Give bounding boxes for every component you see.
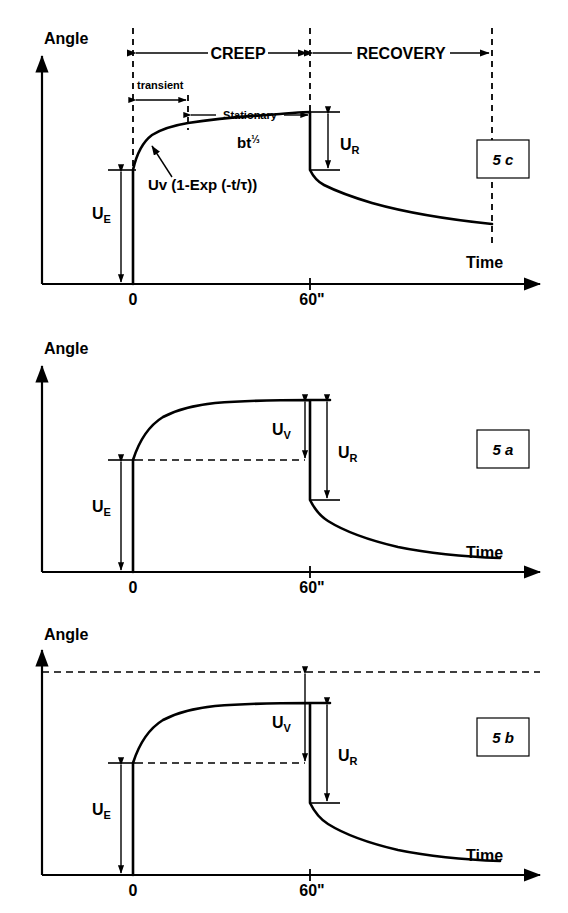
- creep-recovery-figure: Angle Time CREEP RECOVERY transient Stat…: [0, 0, 568, 913]
- annotation-stationary-law-5c: bt⅓: [237, 134, 260, 151]
- chart-panel-5a: Angle Time UE UV UR 0 60" 5 a: [0, 310, 568, 610]
- ue-label-5a: UE: [92, 498, 111, 518]
- x-tick-label-0-5b: 0: [129, 882, 138, 899]
- chart-svg-5a: Angle Time UE UV UR 0 60" 5 a: [0, 310, 568, 610]
- x-tick-label-0-5c: 0: [129, 291, 138, 308]
- ue-label-5b: UE: [92, 801, 111, 821]
- y-axis-label-5c: Angle: [44, 30, 89, 47]
- x-tick-label-60-5b: 60": [299, 882, 324, 899]
- sub-phase-label-transient-5c: transient: [137, 79, 184, 91]
- ue-label-5c: UE: [92, 205, 111, 225]
- phase-label-creep-5c: CREEP: [210, 45, 265, 62]
- ur-label-5b: UR: [338, 747, 358, 767]
- x-tick-label-0-5a: 0: [129, 579, 138, 596]
- ur-label-5a: UR: [338, 444, 358, 464]
- uv-label-5a: UV: [272, 421, 292, 441]
- creep-recovery-curve-5b: [133, 703, 500, 875]
- panel-tag-5b: 5 b: [492, 729, 514, 746]
- x-axis-label-5c: Time: [466, 254, 503, 271]
- chart-panel-5c: Angle Time CREEP RECOVERY transient Stat…: [0, 0, 568, 310]
- chart-svg-5b: Angle Time UE UV UR 0 60": [0, 610, 568, 913]
- chart-panel-5b: Angle Time UE UV UR 0 60": [0, 610, 568, 913]
- creep-recovery-curve-5a: [133, 400, 500, 572]
- ur-label-5c: UR: [340, 136, 360, 156]
- x-tick-label-60-5a: 60": [299, 579, 324, 596]
- panel-tag-5a: 5 a: [493, 441, 514, 458]
- panel-tag-5c: 5 c: [493, 151, 515, 168]
- annotation-pointer-5c: [152, 146, 172, 177]
- chart-svg-5c: Angle Time CREEP RECOVERY transient Stat…: [0, 0, 568, 310]
- y-axis-label-5a: Angle: [44, 340, 89, 357]
- annotation-transient-law-5c: Uv (1-Exp (-t/τ)): [148, 176, 257, 193]
- y-axis-label-5b: Angle: [44, 626, 89, 643]
- uv-label-5b: UV: [272, 714, 292, 734]
- x-tick-label-60-5c: 60": [299, 291, 324, 308]
- phase-label-recovery-5c: RECOVERY: [356, 45, 446, 62]
- creep-recovery-curve-5c: [133, 112, 492, 284]
